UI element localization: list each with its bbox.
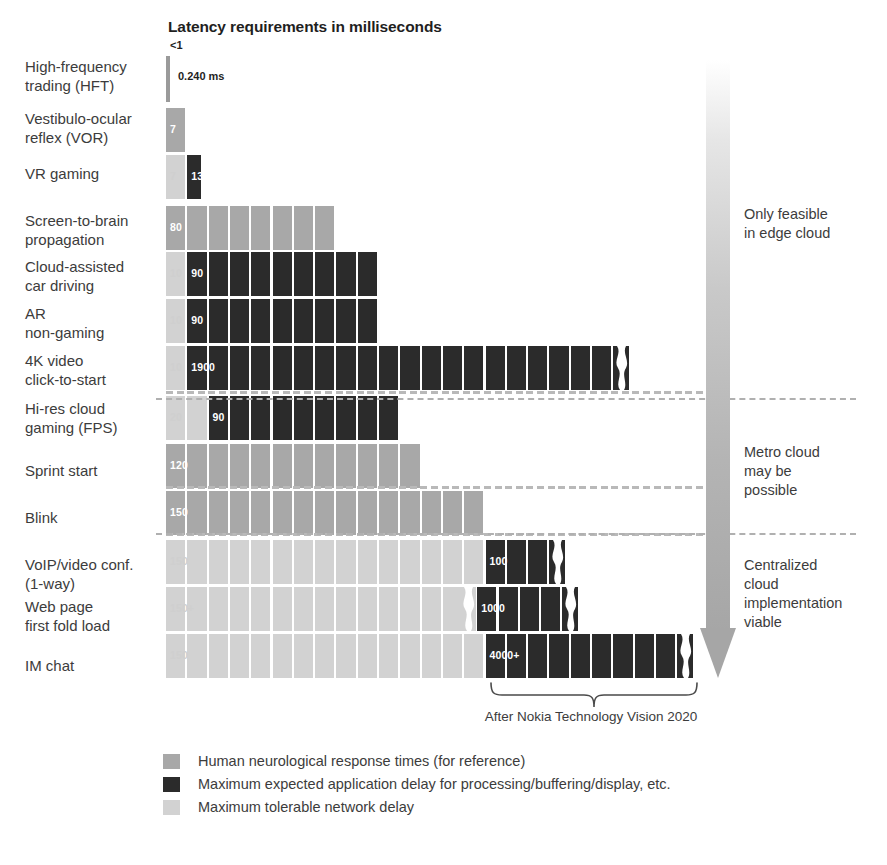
bar-segment-net	[187, 540, 206, 584]
tick-mark	[251, 391, 258, 394]
category-label-line: non-gaming	[25, 324, 165, 343]
bar-segment-net	[230, 634, 249, 678]
tick-mark	[325, 486, 332, 489]
bar-segment-app	[230, 396, 249, 440]
zone-label: Metro cloudmay bepossible	[744, 443, 820, 500]
tick-mark	[410, 391, 417, 394]
bar-segment-app	[358, 252, 377, 296]
bar-segment-net	[358, 540, 377, 584]
bar-segment-net	[422, 540, 441, 584]
tick-mark	[463, 486, 470, 489]
bar-segment-net	[379, 540, 398, 584]
bar-segment-app	[273, 396, 292, 440]
bar-value-label: 90	[191, 314, 203, 326]
tick-mark	[240, 486, 247, 489]
bar-segment-app	[294, 346, 313, 390]
bar-segment-net	[315, 587, 334, 631]
tick-mark	[420, 486, 427, 489]
category-label-line: Screen-to-brain	[25, 212, 165, 231]
bar-segment-human	[358, 444, 377, 488]
bar-segment-net	[230, 587, 249, 631]
bar-segment-human	[294, 444, 313, 488]
tick-mark	[177, 486, 184, 489]
bar-segment-app	[315, 346, 334, 390]
bar-segment-net	[315, 540, 334, 584]
bar-value-label: 80	[170, 221, 182, 233]
bar-segment-net	[464, 540, 483, 584]
bar-segment-net	[336, 587, 355, 631]
tick-mark	[399, 486, 406, 489]
bar-segment-app	[379, 346, 398, 390]
tick-mark	[230, 391, 237, 394]
tick-mark	[240, 391, 247, 394]
tick-mark	[516, 391, 523, 394]
tick-mark	[548, 391, 555, 394]
bar-segment-net	[358, 634, 377, 678]
bar-segment-app	[507, 346, 526, 390]
bar-segment-human	[358, 491, 377, 535]
bar-segment-app	[549, 634, 568, 678]
tick-mark	[452, 391, 459, 394]
tick-mark	[283, 391, 290, 394]
bar-segment-app	[443, 346, 462, 390]
zone-label-line: cloud	[744, 575, 842, 594]
bar-segment-net	[209, 587, 228, 631]
category-label: ARnon-gaming	[25, 305, 165, 342]
tick-mark	[526, 486, 533, 489]
tick-mark	[495, 391, 502, 394]
bar-segment-human	[230, 491, 249, 535]
tick-mark	[314, 391, 321, 394]
bar-segment-net	[315, 634, 334, 678]
bar-segment-human	[400, 491, 419, 535]
tick-mark	[261, 486, 268, 489]
category-label-line: (1-way)	[25, 575, 165, 594]
category-label-line: VoIP/video conf.	[25, 556, 165, 575]
tick-strip	[166, 486, 706, 490]
axis-break-icon	[677, 634, 693, 678]
bar-segment-human	[187, 206, 206, 250]
bar-value-label: 120	[170, 459, 188, 471]
tick-mark	[378, 486, 385, 489]
bar-segment-app	[336, 299, 355, 343]
tick-mark	[654, 391, 661, 394]
tick-mark	[452, 486, 459, 489]
tick-mark	[643, 486, 650, 489]
bar-segment-app	[315, 396, 334, 440]
bar-segment-net	[294, 634, 313, 678]
tick-mark	[442, 391, 449, 394]
legend-label: Maximum tolerable network delay	[198, 797, 414, 817]
bar-segment-net	[209, 540, 228, 584]
bar-segment-net	[336, 540, 355, 584]
bar-segment-app	[486, 346, 505, 390]
bar-segment-human	[336, 444, 355, 488]
tick-mark	[367, 391, 374, 394]
bar-segment-net	[273, 634, 292, 678]
category-label-line: click-to-start	[25, 371, 165, 390]
category-label: Cloud-assistedcar driving	[25, 258, 165, 295]
tick-mark	[357, 486, 364, 489]
category-label-line: Hi-res cloud	[25, 400, 165, 419]
category-label-line: 4K video	[25, 352, 165, 371]
bar-segment-human	[251, 491, 270, 535]
bar-value-label: 10	[170, 361, 182, 373]
bar-value-label: 20	[170, 411, 182, 423]
tick-mark	[410, 486, 417, 489]
tick-mark	[473, 486, 480, 489]
zone-divider	[156, 533, 856, 535]
cloud-tier-arrow	[700, 60, 736, 680]
tick-mark	[548, 486, 555, 489]
tick-mark	[357, 391, 364, 394]
tick-mark	[505, 486, 512, 489]
tick-mark	[389, 391, 396, 394]
bar-segment-net	[230, 540, 249, 584]
legend-label: Human neurological response times (for r…	[198, 751, 525, 771]
tick-strip	[166, 391, 706, 395]
bar-value-label: 150+	[170, 602, 194, 614]
tick-mark	[219, 486, 226, 489]
tick-mark	[643, 391, 650, 394]
bar-segment-app	[613, 634, 632, 678]
zone-label-line: implementation	[744, 594, 842, 613]
tick-mark	[198, 391, 205, 394]
category-label-line: Vestibulo-ocular	[25, 110, 165, 129]
tick-mark	[272, 486, 279, 489]
